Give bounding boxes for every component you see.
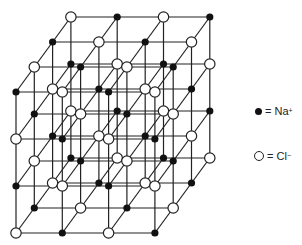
sodium-ion [12, 88, 19, 95]
chloride-ion [29, 62, 39, 72]
sodium-ion [114, 13, 121, 20]
sodium-ion [59, 135, 66, 142]
chloride-ion [57, 87, 67, 97]
sodium-ion [105, 182, 112, 189]
chloride-ion [103, 228, 113, 238]
chloride-ion [186, 131, 196, 141]
chloride-ion [122, 156, 132, 166]
chloride-ion [168, 203, 178, 213]
chloride-ion [75, 109, 85, 119]
sodium-ion [31, 110, 38, 117]
sodium-ion [160, 60, 167, 67]
chloride-ion [29, 156, 39, 166]
lattice-diagram [0, 0, 302, 245]
chloride-ion [140, 178, 150, 188]
sodium-ion [123, 204, 130, 211]
legend-sodium: = Na+ [255, 105, 293, 117]
chloride-ion [103, 134, 113, 144]
chloride-ion [11, 134, 21, 144]
sodium-ion [170, 63, 177, 70]
sodium-ion [151, 135, 158, 142]
sodium-ion [206, 13, 213, 20]
sodium-ion [67, 60, 74, 67]
sodium-ion [77, 63, 84, 70]
chloride-ion [66, 106, 76, 116]
chloride-ion [57, 181, 67, 191]
chloride-ion [112, 59, 122, 69]
chloride-ion [158, 106, 168, 116]
sodium-ion [188, 85, 195, 92]
sodium-ion [59, 229, 66, 236]
chloride-ion [47, 178, 57, 188]
chloride-ion [122, 62, 132, 72]
sodium-ion [105, 88, 112, 95]
chloride-ion [11, 228, 21, 238]
sodium-ion [95, 179, 102, 186]
chloride-ion [75, 203, 85, 213]
chloride-ion [150, 87, 160, 97]
chloride-ion [94, 131, 104, 141]
sodium-ion [160, 154, 167, 161]
chloride-ion [158, 12, 168, 22]
legend-sodium-label: = Na [265, 105, 289, 117]
chloride-ion [66, 12, 76, 22]
sodium-ion [170, 157, 177, 164]
open-circle-icon [254, 151, 264, 161]
sodium-ion [31, 204, 38, 211]
chloride-ion [150, 181, 160, 191]
legend-chloride: = Cl− [254, 150, 291, 162]
sodium-ion [142, 38, 149, 45]
sodium-ion [123, 110, 130, 117]
filled-circle-icon [255, 108, 262, 115]
sodium-ion [12, 182, 19, 189]
chloride-ion [140, 84, 150, 94]
sodium-ion [67, 154, 74, 161]
sodium-ion [77, 157, 84, 164]
chloride-ion [47, 84, 57, 94]
chloride-ion [205, 153, 215, 163]
nacl-lattice-figure: = Na+ = Cl− [0, 0, 302, 245]
sodium-ion [142, 132, 149, 139]
chloride-ion [112, 153, 122, 163]
sodium-ion [188, 179, 195, 186]
chloride-ion [205, 59, 215, 69]
sodium-ion [206, 107, 213, 114]
sodium-ion [114, 107, 121, 114]
legend-chloride-label: = Cl [267, 150, 287, 162]
sodium-ion [151, 229, 158, 236]
sodium-ion [95, 85, 102, 92]
chloride-ion [168, 109, 178, 119]
chloride-ion [186, 37, 196, 47]
sodium-ion [49, 132, 56, 139]
sodium-ion [49, 38, 56, 45]
chloride-ion [94, 37, 104, 47]
